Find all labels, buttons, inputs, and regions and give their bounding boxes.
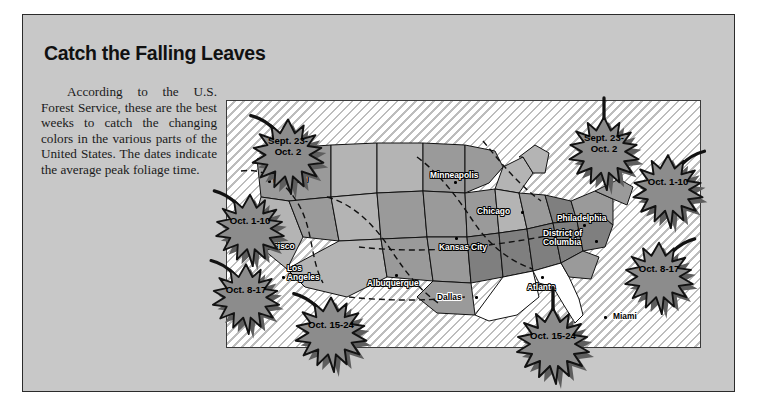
city-label: Dallas <box>437 293 462 302</box>
foliage-date-leaf: Oct. 15-24 <box>494 286 612 386</box>
city-label: District of Columbia <box>543 229 582 248</box>
city-label: Kansas City <box>439 243 487 252</box>
intro-paragraph: According to the U.S. Forest Service, th… <box>41 84 217 178</box>
city-label: Chicago <box>477 207 510 216</box>
infographic-root: Catch the Falling Leaves According to th… <box>0 0 757 411</box>
city-dot <box>583 224 586 227</box>
city-dot <box>395 274 398 277</box>
leaf-icon <box>612 134 724 230</box>
foliage-date-leaf: Oct. 15-24 <box>272 276 390 374</box>
leaf-icon <box>494 286 612 386</box>
city-label: Philadelphia <box>557 214 606 223</box>
foliage-date-leaf: Oct. 1-10 <box>612 134 724 230</box>
city-dot <box>541 276 544 279</box>
leaf-icon <box>604 222 714 316</box>
city-dot <box>455 237 458 240</box>
foliage-date-leaf: Oct. 8-17 <box>604 222 714 316</box>
city-dot <box>595 240 598 243</box>
leaf-icon <box>272 276 390 374</box>
city-dot <box>521 211 524 214</box>
city-dot <box>454 181 457 184</box>
city-dot <box>475 296 478 299</box>
city-label: Minneapolis <box>430 171 478 180</box>
page-title: Catch the Falling Leaves <box>44 42 344 65</box>
